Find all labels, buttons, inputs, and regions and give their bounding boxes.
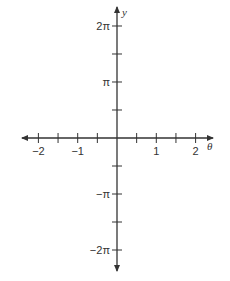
- x-axis-ticks: −2−112: [32, 133, 199, 157]
- x-tick-label: −1: [71, 145, 84, 157]
- x-tick-label: 1: [153, 145, 159, 157]
- coordinate-plane: −2−112 2ππ−π−2π θ y: [0, 0, 230, 281]
- x-tick-label: −2: [32, 145, 45, 157]
- x-tick-label: 2: [193, 145, 199, 157]
- y-tick-label: −2π: [90, 244, 111, 256]
- x-axis-label: θ: [207, 140, 213, 152]
- y-tick-label: −π: [96, 188, 110, 200]
- y-tick-label: π: [102, 76, 110, 88]
- y-axis-label: y: [121, 6, 127, 18]
- y-tick-label: 2π: [96, 20, 110, 32]
